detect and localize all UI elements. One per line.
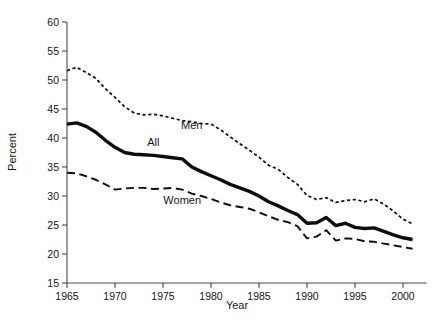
series-label-women: Women — [163, 194, 201, 206]
line-chart: 15202530354045505560 1965197019751980198… — [0, 0, 432, 324]
x-tick-label: 1980 — [199, 290, 223, 302]
chart-canvas: 15202530354045505560 1965197019751980198… — [0, 0, 432, 324]
series-label-all: All — [147, 136, 159, 148]
y-tick-label: 35 — [47, 161, 59, 173]
y-tick-label: 15 — [47, 277, 59, 289]
series-annotations: MenAllWomen — [147, 119, 202, 206]
y-axis-title: Percent — [6, 133, 18, 171]
y-tick-label: 25 — [47, 219, 59, 231]
x-tick-label: 1985 — [247, 290, 271, 302]
y-tick-label: 40 — [47, 132, 59, 144]
series-label-men: Men — [181, 119, 202, 131]
x-tick-label: 1995 — [343, 290, 367, 302]
y-tick-label: 60 — [47, 16, 59, 28]
series-line-all — [67, 123, 413, 240]
x-axis-title: Year — [226, 299, 249, 311]
y-tick-label: 20 — [47, 248, 59, 260]
series-line-men — [67, 67, 413, 224]
y-tick-label: 30 — [47, 190, 59, 202]
y-axis-tick-labels: 15202530354045505560 — [47, 16, 59, 289]
y-tick-label: 45 — [47, 103, 59, 115]
series-lines — [67, 67, 413, 249]
series-line-women — [67, 173, 413, 249]
x-tick-label: 1990 — [295, 290, 319, 302]
x-tick-label: 1975 — [151, 290, 175, 302]
x-tick-label: 2000 — [391, 290, 415, 302]
y-tick-label: 50 — [47, 74, 59, 86]
y-tick-label: 55 — [47, 45, 59, 57]
y-axis-tick-marks — [62, 22, 67, 283]
x-tick-label: 1965 — [55, 290, 79, 302]
x-axis-tick-marks — [67, 283, 403, 288]
x-tick-label: 1970 — [103, 290, 127, 302]
